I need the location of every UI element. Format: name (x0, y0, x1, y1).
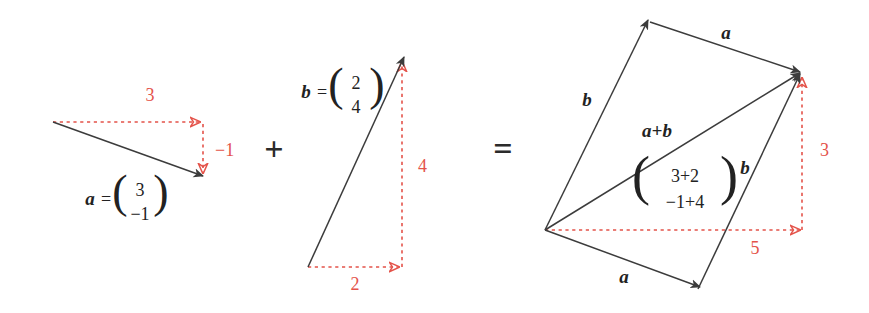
operator-equals: = (493, 130, 512, 167)
vector-diagram-canvas: 3 −1 a = ( 3 −1 ) + 2 4 b = ( (0, 0, 869, 313)
vector-b-column-top: 2 (352, 73, 361, 93)
sum-column-top: 3+2 (671, 166, 699, 186)
vector-a-name: a (85, 188, 95, 209)
sum-paren-left: ( (632, 146, 650, 206)
resultant-label-a-plus-b: a+b (642, 120, 672, 141)
component-y-label-b: 4 (418, 156, 427, 176)
vector-arrow-a (53, 122, 203, 176)
component-y-label-a: −1 (215, 140, 234, 160)
vector-addition-figure: 3 −1 a = ( 3 −1 ) + 2 4 b = ( (0, 0, 869, 313)
panel-vector-sum: b a a b a+b 5 3 ( 3+2 −1+4 ) (545, 20, 829, 289)
operator-plus: + (264, 130, 283, 167)
parallelogram-edge-b-right (698, 74, 800, 289)
vector-b-equals: = (317, 82, 327, 102)
vector-a-equation: a = ( 3 −1 ) (85, 166, 168, 224)
sum-column-vector: ( 3+2 −1+4 ) (632, 146, 738, 212)
edge-label-b-right: b (740, 157, 750, 178)
vector-a-equals: = (101, 189, 111, 209)
vector-b-equation: b = ( 2 4 ) (301, 59, 384, 117)
component-x-label-sum: 5 (751, 238, 760, 258)
vector-b-paren-right: ) (369, 59, 384, 110)
vector-b-column-bottom: 4 (352, 97, 361, 117)
edge-label-a-bottom: a (619, 266, 629, 287)
panel-vector-a: 3 −1 a = ( 3 −1 ) (53, 85, 234, 224)
sum-paren-right: ) (720, 146, 738, 206)
edge-label-a-top: a (721, 22, 731, 43)
sum-column-bottom: −1+4 (666, 192, 704, 212)
vector-a-column-top: 3 (136, 180, 145, 200)
panel-vector-b: 2 4 b = ( 2 4 ) (301, 57, 427, 294)
component-x-label-a: 3 (146, 85, 155, 105)
vector-b-paren-left: ( (328, 59, 343, 110)
vector-a-paren-left: ( (112, 166, 127, 217)
component-x-label-b: 2 (351, 274, 360, 294)
vector-b-name: b (301, 81, 311, 102)
vector-a-paren-right: ) (153, 166, 168, 217)
vector-a-column-bottom: −1 (130, 204, 149, 224)
component-y-label-sum: 3 (820, 140, 829, 160)
edge-label-b-left: b (582, 89, 592, 110)
